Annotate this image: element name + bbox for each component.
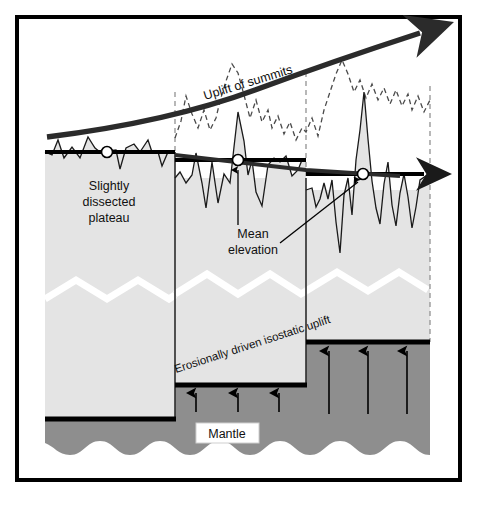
circle-marker-icon xyxy=(358,169,369,180)
circle-marker-icon xyxy=(102,147,113,158)
circle-marker-icon xyxy=(233,155,244,166)
mean-elevation-label-line-2: elevation xyxy=(228,243,278,257)
diagram-canvas: Uplift of summits Slightly dissected pla… xyxy=(0,0,477,509)
isostatic-uplift-diagram: Uplift of summits Slightly dissected pla… xyxy=(0,0,477,509)
plateau-label-line-2: dissected xyxy=(83,195,136,209)
mantle-label: Mantle xyxy=(208,427,246,441)
plateau-label-line-1: Slightly xyxy=(89,179,130,193)
plateau-label-line-3: plateau xyxy=(88,211,129,225)
mean-elevation-label-line-1: Mean xyxy=(237,227,268,241)
